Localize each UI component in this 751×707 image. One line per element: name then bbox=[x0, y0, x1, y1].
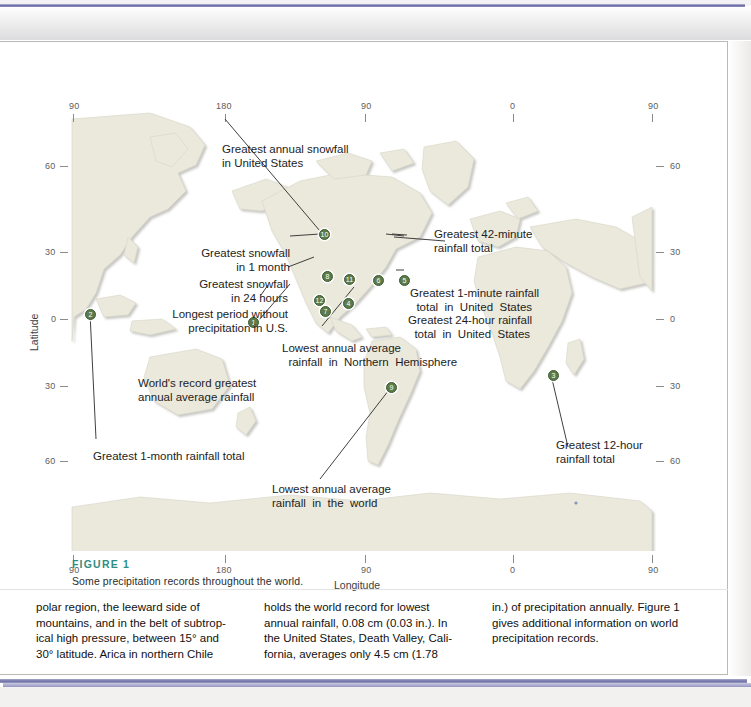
annotation-greatest-1-minute-us: Greatest 1-minute rainfall total in Unit… bbox=[410, 286, 539, 314]
annotation-lowest-annual-northern-hemisphere: Lowest annual average rainfall in Northe… bbox=[282, 341, 457, 369]
page-top-accent-rule bbox=[0, 4, 745, 7]
body-text-columns: polar region, the leeward side of mounta… bbox=[36, 600, 716, 662]
annotation-worlds-record-greatest: World's record greatest annual average r… bbox=[138, 376, 256, 404]
annotation-lowest-annual-world: Lowest annual average rainfall in the wo… bbox=[272, 482, 391, 510]
map-marker-12[interactable]: 12 bbox=[314, 295, 325, 306]
world-map bbox=[0, 41, 728, 551]
map-marker-4[interactable]: 4 bbox=[343, 298, 354, 309]
figure-caption-title: FIGURE 1 bbox=[72, 558, 472, 570]
annotation-greatest-24-hour-us: Greatest 24-hour rainfall total in Unite… bbox=[408, 313, 532, 341]
map-marker-6[interactable]: 6 bbox=[373, 275, 384, 286]
page-top-gradient bbox=[0, 8, 751, 40]
body-column-2: holds the world record for lowest annual… bbox=[264, 600, 464, 662]
body-column-3: in.) of precipitation annually. Figure 1… bbox=[492, 600, 692, 662]
map-marker-3[interactable]: 3 bbox=[548, 370, 559, 381]
annotation-greatest-42-minute: Greatest 42-minute rainfall total bbox=[434, 227, 532, 255]
annotation-greatest-snowfall-24-hours: Greatest snowfall in 24 hours bbox=[168, 277, 288, 305]
annotation-greatest-12-hour: Greatest 12-hour rainfall total bbox=[556, 438, 643, 466]
page-bottom-band bbox=[0, 687, 751, 707]
annotation-greatest-annual-snowfall-us: Greatest annual snowfall in United State… bbox=[222, 142, 349, 170]
annotation-longest-period-without-precip: Longest period without precipitation in … bbox=[133, 307, 288, 335]
map-marker-7[interactable]: 7 bbox=[320, 306, 331, 317]
y-axis-title: Latitude bbox=[28, 314, 40, 351]
figure-caption-text: Some precipitation records throughout th… bbox=[72, 575, 472, 587]
figure-caption: FIGURE 1 Some precipitation records thro… bbox=[72, 558, 472, 587]
body-text-divider bbox=[0, 589, 728, 590]
map-marker-9[interactable]: 9 bbox=[386, 382, 397, 393]
page-edge-shadow bbox=[728, 41, 751, 676]
map-marker-5[interactable]: 5 bbox=[399, 275, 410, 286]
map-marker-8[interactable]: 8 bbox=[322, 271, 333, 282]
map-marker-11[interactable]: 11 bbox=[344, 274, 355, 285]
figure-1: 90 180 90 0 90 90 180 90 0 90 Longitude bbox=[0, 41, 728, 551]
annotation-greatest-1-month-rainfall: Greatest 1-month rainfall total bbox=[93, 449, 245, 463]
book-page: 90 180 90 0 90 90 180 90 0 90 Longitude bbox=[0, 0, 751, 707]
body-column-1: polar region, the leeward side of mounta… bbox=[36, 600, 236, 662]
map-marker-10[interactable]: 10 bbox=[319, 229, 330, 240]
annotation-greatest-snowfall-1-month: Greatest snowfall in 1 month bbox=[170, 246, 290, 274]
map-marker-2[interactable]: 2 bbox=[85, 309, 96, 320]
